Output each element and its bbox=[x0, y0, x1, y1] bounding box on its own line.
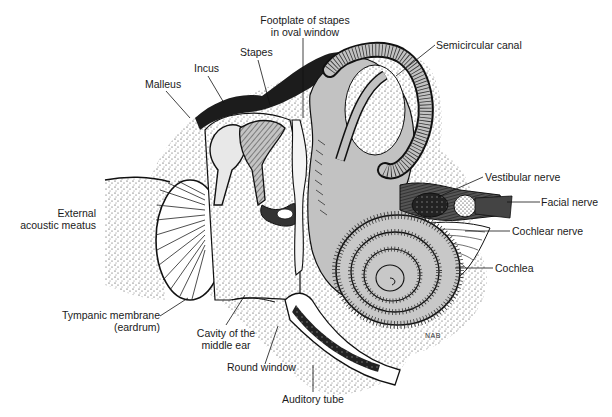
artist-signature: NAB bbox=[425, 332, 441, 339]
label-cochlear-nerve: Cochlear nerve bbox=[512, 225, 583, 237]
label-footplate-of-stapes: Footplate of stapes in oval window bbox=[250, 14, 360, 38]
label-tympanic-line1: Tympanic membrane bbox=[50, 309, 160, 321]
label-cochlea: Cochlea bbox=[495, 262, 534, 274]
label-auditory-tube: Auditory tube bbox=[282, 393, 344, 405]
label-tympanic-membrane: Tympanic membrane (eardrum) bbox=[50, 309, 160, 333]
label-external-acoustic-meatus: External acoustic meatus bbox=[10, 207, 96, 231]
label-cavity-middle-ear: Cavity of the middle ear bbox=[190, 327, 262, 351]
cochlea bbox=[336, 215, 460, 325]
label-stapes: Stapes bbox=[240, 46, 273, 58]
label-external-line2: acoustic meatus bbox=[10, 219, 96, 231]
label-external-line1: External bbox=[10, 207, 96, 219]
label-incus: Incus bbox=[194, 62, 219, 74]
label-vestibular-nerve: Vestibular nerve bbox=[485, 171, 560, 183]
label-footplate-line1: Footplate of stapes bbox=[250, 14, 360, 26]
label-cavity-line1: Cavity of the bbox=[190, 327, 262, 339]
label-semicircular-canal: Semicircular canal bbox=[436, 39, 522, 51]
label-tympanic-line2: (eardrum) bbox=[50, 321, 160, 333]
ear-anatomy-diagram: Footplate of stapes in oval window Stape… bbox=[0, 0, 612, 417]
label-footplate-line2: in oval window bbox=[250, 26, 360, 38]
label-cavity-line2: middle ear bbox=[190, 339, 262, 351]
label-malleus: Malleus bbox=[145, 78, 181, 90]
label-facial-nerve: Facial nerve bbox=[541, 196, 598, 208]
label-round-window: Round window bbox=[227, 361, 296, 373]
